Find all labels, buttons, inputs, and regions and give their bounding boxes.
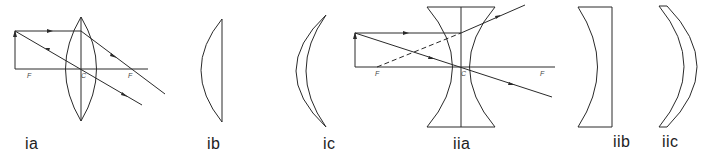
plano-concave-lens — [578, 7, 612, 127]
center-label: C — [81, 72, 86, 79]
ray-arrow-icon — [508, 82, 515, 85]
focal-point-right-label: F — [128, 72, 132, 79]
center-label: C — [461, 70, 466, 77]
panel-label-iic: iic — [662, 133, 679, 151]
panel-label-ia: ia — [25, 135, 38, 153]
ray-arrow-icon — [495, 15, 501, 19]
panel-label-ib: ib — [207, 135, 220, 153]
panel-iia-diagram — [353, 5, 555, 127]
focal-point-left-label: F — [375, 70, 379, 77]
chief-ray — [355, 33, 552, 97]
ray-arrow-icon — [110, 53, 117, 58]
ray-arrow-icon — [403, 31, 409, 35]
ray-arrow-icon — [121, 92, 128, 97]
panel-label-ic: ic — [323, 135, 336, 153]
virtual-ray-extension — [377, 33, 461, 67]
focal-point-right-label: F — [540, 70, 544, 77]
refracted-ray — [81, 31, 165, 94]
panel-label-iib: iib — [613, 133, 631, 151]
optics-diagram — [0, 0, 704, 157]
ray-arrow-icon — [47, 29, 53, 33]
converging-meniscus-lens — [296, 15, 326, 127]
panel-ia-diagram — [13, 17, 165, 121]
panel-label-iia: iia — [453, 135, 471, 153]
focal-point-left-label: F — [27, 72, 31, 79]
diverging-meniscus-lens — [659, 6, 697, 127]
ray-arrow-icon — [428, 56, 435, 59]
plano-convex-lens — [201, 19, 222, 122]
